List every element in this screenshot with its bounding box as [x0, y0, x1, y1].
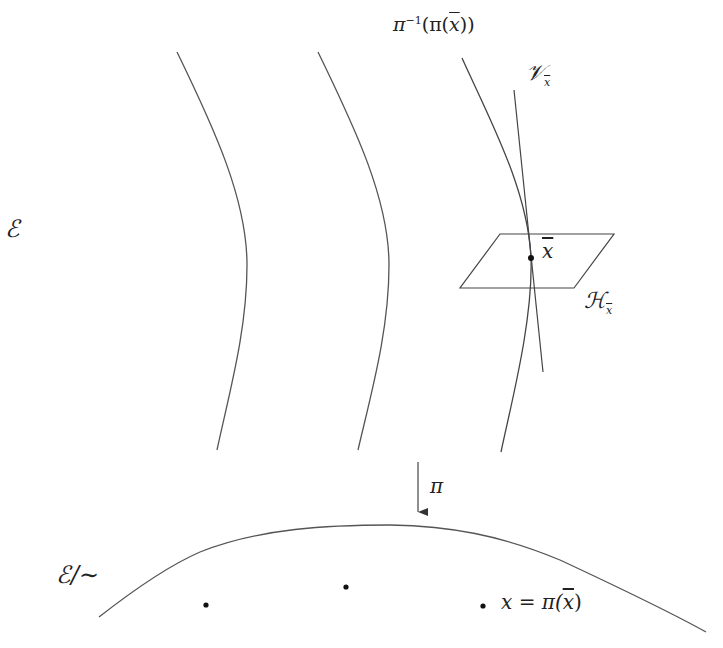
label-point-xbar: x	[542, 241, 553, 261]
diagram-canvas	[0, 0, 723, 648]
label-horizontal-space: ℋx	[584, 290, 612, 312]
label-projected-point: x = π(x)	[501, 592, 582, 612]
label-fiber: π−1(π(x))	[393, 15, 475, 34]
label-total-space: ℰ	[5, 217, 20, 241]
label-projection: π	[430, 476, 443, 496]
fiber-curve-1	[177, 52, 247, 450]
quotient-point-dot	[480, 603, 485, 608]
quotient-point-dot	[343, 584, 348, 589]
horizontal-space-plane	[460, 234, 614, 288]
vertical-space-line	[514, 90, 543, 372]
label-quotient-space: ℰ/∼	[56, 563, 99, 587]
quotient-points	[203, 584, 485, 608]
point-xbar-dot	[528, 255, 534, 261]
fiber-curve-2	[318, 52, 389, 450]
quotient-space-curve	[99, 525, 706, 632]
fiber-curve-through-xbar	[462, 58, 531, 452]
quotient-point-dot	[203, 602, 208, 607]
label-vertical-space: 𝒱x	[526, 62, 550, 84]
